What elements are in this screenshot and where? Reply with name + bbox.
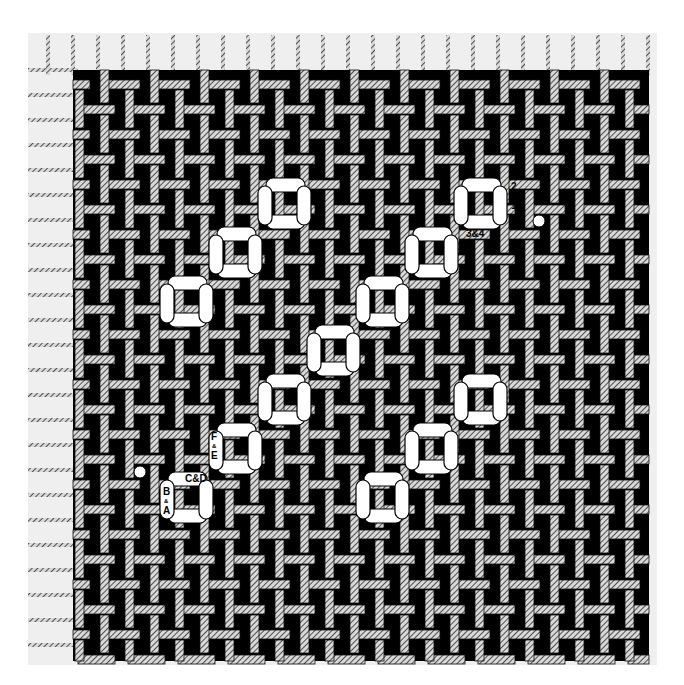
vertical-bar-stitch bbox=[425, 390, 434, 428]
vertical-bar-stitch bbox=[375, 540, 384, 578]
margin-tick-horizontal bbox=[28, 118, 78, 122]
vertical-bar-stitch bbox=[550, 465, 559, 503]
vertical-bar-stitch bbox=[175, 640, 184, 661]
vertical-bar-stitch bbox=[100, 365, 109, 403]
bead-left bbox=[307, 333, 321, 372]
vertical-bar-stitch bbox=[475, 490, 484, 528]
vertical-bar-stitch bbox=[150, 615, 159, 653]
vertical-bar-stitch bbox=[275, 90, 284, 128]
vertical-bar-stitch bbox=[125, 190, 134, 228]
vertical-bar-stitch bbox=[550, 315, 559, 353]
margin-tick-horizontal bbox=[28, 468, 78, 472]
vertical-bar-stitch bbox=[350, 115, 359, 153]
vertical-bar-stitch bbox=[100, 265, 109, 303]
vertical-bar-stitch bbox=[325, 240, 334, 278]
vertical-bar-stitch bbox=[625, 490, 634, 528]
vertical-bar-stitch bbox=[600, 215, 609, 253]
vertical-bar-stitch bbox=[575, 140, 584, 178]
vertical-bar-stitch bbox=[75, 540, 84, 578]
vertical-bar-stitch bbox=[450, 565, 459, 603]
vertical-bar-stitch bbox=[175, 590, 184, 628]
vertical-bar-stitch bbox=[75, 240, 84, 278]
vertical-bar-stitch bbox=[200, 615, 209, 653]
vertical-bar-stitch bbox=[525, 390, 534, 428]
vertical-bar-stitch bbox=[600, 70, 609, 103]
vertical-bar-stitch bbox=[125, 240, 134, 278]
vertical-bar-stitch bbox=[600, 315, 609, 353]
vertical-bar-stitch bbox=[225, 490, 234, 528]
vertical-bar-stitch bbox=[100, 415, 109, 453]
bead-right bbox=[346, 333, 360, 372]
vertical-bar-stitch bbox=[200, 115, 209, 153]
vertical-bar-stitch bbox=[475, 440, 484, 478]
vertical-bar-stitch bbox=[225, 190, 234, 228]
vertical-bar-stitch bbox=[375, 90, 384, 128]
vertical-bar-stitch bbox=[225, 390, 234, 428]
margin-tick-horizontal bbox=[28, 243, 78, 247]
margin-tick-horizontal bbox=[28, 343, 78, 347]
vertical-bar-stitch bbox=[125, 290, 134, 328]
vertical-bar-stitch bbox=[75, 190, 84, 228]
vertical-bar-stitch bbox=[550, 215, 559, 253]
label-bottom: E bbox=[211, 450, 218, 461]
vertical-bar-stitch bbox=[100, 565, 109, 603]
vertical-bar-stitch bbox=[275, 590, 284, 628]
bead-right bbox=[444, 235, 458, 274]
vertical-bar-stitch bbox=[150, 365, 159, 403]
margin-tick-horizontal bbox=[28, 293, 78, 297]
vertical-bar-stitch bbox=[575, 290, 584, 328]
vertical-bar-stitch bbox=[375, 240, 384, 278]
vertical-bar-stitch bbox=[275, 640, 284, 661]
vertical-bar-stitch bbox=[200, 215, 209, 253]
vertical-bar-stitch bbox=[75, 90, 84, 128]
vertical-bar-stitch bbox=[175, 390, 184, 428]
margin-tick-vertical bbox=[496, 35, 500, 75]
vertical-bar-stitch bbox=[225, 140, 234, 178]
vertical-bar-stitch bbox=[625, 140, 634, 178]
vertical-bar-stitch bbox=[150, 215, 159, 253]
vertical-bar-stitch bbox=[350, 615, 359, 653]
vertical-bar-stitch bbox=[225, 340, 234, 378]
vertical-bar-stitch bbox=[600, 415, 609, 453]
vertical-bar-stitch bbox=[425, 290, 434, 328]
vertical-bar-stitch bbox=[575, 190, 584, 228]
vertical-bar-stitch bbox=[575, 390, 584, 428]
vertical-bar-stitch bbox=[375, 140, 384, 178]
vertical-bar-stitch bbox=[475, 590, 484, 628]
vertical-bar-stitch bbox=[325, 440, 334, 478]
margin-tick-vertical bbox=[471, 35, 475, 75]
vertical-bar-stitch bbox=[150, 70, 159, 103]
arrow-up-icon: ↑ bbox=[512, 173, 517, 183]
vertical-bar-stitch bbox=[450, 615, 459, 653]
vertical-bar-stitch bbox=[175, 540, 184, 578]
vertical-bar-stitch bbox=[550, 265, 559, 303]
vertical-bar-stitch bbox=[175, 340, 184, 378]
vertical-bar-stitch bbox=[400, 115, 409, 153]
vertical-bar-stitch bbox=[150, 315, 159, 353]
vertical-bar-stitch bbox=[600, 165, 609, 203]
vertical-bar-stitch bbox=[625, 440, 634, 478]
vertical-bar-stitch bbox=[325, 540, 334, 578]
vertical-bar-stitch bbox=[400, 70, 409, 103]
vertical-bar-stitch bbox=[600, 615, 609, 653]
vertical-bar-stitch bbox=[475, 640, 484, 661]
vertical-bar-stitch bbox=[350, 515, 359, 553]
vertical-bar-stitch bbox=[400, 165, 409, 203]
vertical-bar-stitch bbox=[550, 415, 559, 453]
bead-left bbox=[160, 284, 174, 323]
vertical-bar-stitch bbox=[550, 365, 559, 403]
vertical-bar-stitch bbox=[100, 615, 109, 653]
vertical-bar-stitch bbox=[275, 540, 284, 578]
vertical-bar-stitch bbox=[525, 140, 534, 178]
vertical-bar-stitch bbox=[150, 265, 159, 303]
vertical-bar-stitch bbox=[625, 290, 634, 328]
horizontal-bar-stitch bbox=[73, 130, 90, 139]
vertical-bar-stitch bbox=[500, 615, 509, 653]
vertical-bar-stitch bbox=[400, 565, 409, 603]
vertical-bar-stitch bbox=[350, 565, 359, 603]
margin-tick-horizontal bbox=[28, 618, 78, 622]
vertical-bar-stitch bbox=[325, 140, 334, 178]
margin-tick-horizontal bbox=[28, 593, 78, 597]
margin-tick-vertical bbox=[221, 35, 225, 75]
vertical-bar-stitch bbox=[575, 440, 584, 478]
